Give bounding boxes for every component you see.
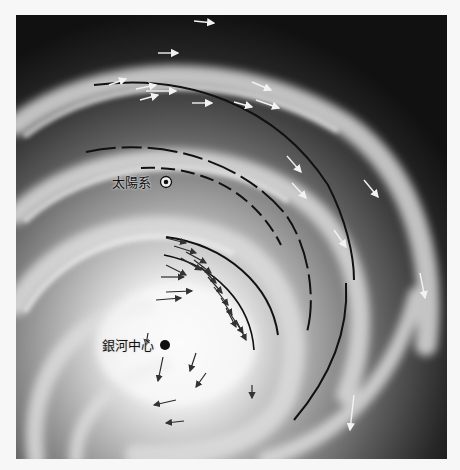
galaxy-diagram: 太陽系 銀河中心 xyxy=(16,15,447,459)
solar-system-label: 太陽系 xyxy=(112,176,151,189)
galactic-center-marker xyxy=(160,340,170,350)
galaxy-illustration xyxy=(16,15,447,459)
galactic-center-label: 銀河中心 xyxy=(102,339,154,352)
solar-system-marker xyxy=(161,177,172,188)
